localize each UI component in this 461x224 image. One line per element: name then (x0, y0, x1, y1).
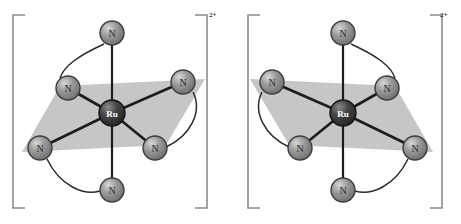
donor-atom-n-equatorial-right: N (171, 70, 195, 94)
donor-label: N (339, 185, 346, 196)
enantiomer-pair-diagram: N N N N N N R (0, 0, 461, 224)
donor-atom-n-equatorial-upper-right: N (375, 76, 399, 100)
donor-atom-n-axial-top: N (100, 21, 124, 45)
chelate-arc-bottom-right (355, 159, 408, 192)
charge-superscript-left: 2+ (209, 12, 217, 19)
donor-label: N (268, 77, 275, 88)
donor-atom-n-equatorial-left: N (260, 70, 284, 94)
metal-label: Ru (106, 109, 118, 119)
donor-atom-n-equatorial-lower-left: N (288, 136, 312, 160)
complex-left: N N N N N N R (13, 15, 207, 208)
donor-label: N (108, 28, 115, 39)
donor-atom-n-equatorial-right: N (403, 136, 427, 160)
donor-atom-n-equatorial-upper-left: N (56, 76, 80, 100)
donor-atom-n-axial-bottom: N (100, 178, 124, 202)
bracket-right-close (430, 15, 442, 208)
donor-label: N (411, 143, 418, 154)
chelate-arc-top-left (60, 44, 104, 78)
complex-right: N N N N N N R (248, 15, 442, 208)
donor-atom-n-equatorial-left: N (28, 136, 52, 160)
donor-atom-n-equatorial-lower-right: N (143, 136, 167, 160)
donor-label: N (179, 77, 186, 88)
donor-atom-n-axial-bottom: N (331, 178, 355, 202)
diagram-canvas: N N N N N N R (0, 0, 461, 224)
chelate-arc-bottom-left (47, 159, 100, 192)
metal-label: Ru (337, 109, 349, 119)
metal-center-ru: Ru (99, 100, 125, 126)
donor-label: N (296, 143, 303, 154)
donor-atom-n-axial-top: N (331, 21, 355, 45)
donor-label: N (64, 83, 71, 94)
donor-label: N (36, 143, 43, 154)
donor-label: N (108, 185, 115, 196)
bracket-left-open (13, 15, 25, 208)
donor-label: N (383, 83, 390, 94)
chelate-arc-top-right (351, 44, 395, 78)
metal-center-ru: Ru (330, 100, 356, 126)
donor-label: N (151, 143, 158, 154)
donor-label: N (339, 28, 346, 39)
charge-superscript-right: 2+ (440, 12, 448, 19)
